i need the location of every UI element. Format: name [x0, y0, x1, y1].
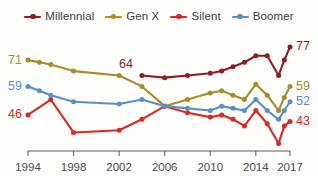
data-point-genx-2	[48, 62, 53, 67]
legend-swatch-genx-icon	[105, 13, 122, 22]
data-point-millennial-7	[253, 53, 258, 58]
data-point-millennial-6	[242, 60, 247, 65]
data-point-silent-8	[219, 112, 224, 117]
x-tick-label-2002: 2002	[106, 162, 132, 174]
legend-swatch-boomer-icon	[232, 13, 249, 22]
data-point-genx-5	[139, 84, 144, 89]
data-point-millennial-10	[282, 58, 287, 63]
data-point-millennial-1	[162, 75, 167, 80]
legend-label-silent: Silent	[191, 11, 220, 23]
value-label-silent-end: 43	[296, 115, 310, 128]
value-label-boomer-start: 59	[8, 80, 22, 93]
value-label-millennial-end: 77	[296, 40, 310, 53]
data-point-genx-0	[26, 58, 31, 63]
value-label-boomer-end: 52	[296, 95, 310, 108]
legend-label-genx: Gen X	[126, 11, 159, 23]
legend-swatch-millennial-icon	[24, 13, 41, 22]
data-point-silent-12	[265, 121, 270, 126]
data-point-silent-6	[185, 110, 190, 115]
data-point-silent-3	[117, 128, 122, 133]
legend-item-boomer[interactable]: Boomer	[232, 11, 294, 23]
data-point-boomer-12	[253, 97, 258, 102]
data-point-genx-11	[242, 97, 247, 102]
data-point-silent-9	[231, 117, 236, 122]
data-point-silent-0	[26, 112, 31, 117]
x-tick-label-2006: 2006	[152, 162, 178, 174]
data-point-boomer-10	[231, 106, 236, 111]
data-point-boomer-4	[117, 101, 122, 106]
series-line-millennial	[142, 47, 290, 78]
plot-svg	[0, 26, 318, 152]
data-point-silent-2	[71, 130, 76, 135]
data-point-millennial-4	[219, 69, 224, 74]
data-point-millennial-11	[288, 44, 293, 49]
value-label-genx-start: 71	[8, 54, 22, 67]
value-label-silent-start: 46	[8, 108, 22, 121]
data-point-millennial-0	[139, 73, 144, 78]
data-point-millennial-2	[185, 73, 190, 78]
legend-item-millennial[interactable]: Millennial	[24, 11, 94, 23]
data-point-boomer-14	[276, 117, 281, 122]
data-point-millennial-9	[276, 73, 281, 78]
x-tick-label-1998: 1998	[61, 162, 87, 174]
data-point-silent-10	[242, 123, 247, 128]
x-tick-label-1994: 1994	[15, 162, 41, 174]
legend-label-boomer: Boomer	[253, 11, 294, 23]
data-point-genx-4	[117, 73, 122, 78]
data-point-silent-11	[253, 108, 258, 113]
data-point-boomer-8	[208, 108, 213, 113]
x-tick-label-2014: 2014	[243, 162, 269, 174]
data-point-millennial-8	[265, 53, 270, 58]
data-point-genx-16	[288, 84, 293, 89]
series-line-silent	[28, 100, 290, 144]
data-point-boomer-9	[219, 104, 224, 109]
data-point-genx-14	[276, 108, 281, 113]
data-point-silent-14	[282, 123, 287, 128]
series-line-genx	[28, 60, 290, 110]
data-point-silent-15	[288, 119, 293, 124]
data-point-boomer-11	[242, 108, 247, 113]
data-point-boomer-16	[288, 99, 293, 104]
data-point-boomer-15	[282, 108, 287, 113]
data-point-genx-8	[208, 91, 213, 96]
value-label-millennial-start: 64	[119, 58, 133, 71]
data-point-genx-7	[185, 97, 190, 102]
legend-item-genx[interactable]: Gen X	[105, 11, 159, 23]
data-point-genx-15	[282, 95, 287, 100]
data-point-genx-1	[37, 60, 42, 65]
data-point-silent-4	[139, 117, 144, 122]
legend-item-silent[interactable]: Silent	[170, 11, 220, 23]
data-point-boomer-3	[71, 99, 76, 104]
line-chart: MillennialGen XSilentBoomer 199419982002…	[0, 0, 318, 176]
data-point-genx-9	[219, 88, 224, 93]
data-point-millennial-3	[208, 71, 213, 76]
x-axis: 1994199820022006201020142017	[0, 150, 318, 176]
legend-swatch-silent-icon	[170, 13, 187, 22]
data-point-silent-7	[208, 115, 213, 120]
chart-legend: MillennialGen XSilentBoomer	[0, 8, 318, 26]
data-point-genx-10	[231, 93, 236, 98]
data-point-silent-13	[276, 141, 281, 146]
data-point-genx-12	[253, 82, 258, 87]
data-point-boomer-0	[26, 84, 31, 89]
plot-area	[0, 26, 318, 152]
data-point-millennial-5	[231, 64, 236, 69]
data-point-boomer-7	[185, 106, 190, 111]
x-tick-label-2017: 2017	[277, 162, 303, 174]
data-point-boomer-5	[139, 97, 144, 102]
data-point-silent-1	[48, 97, 53, 102]
x-tick-label-2010: 2010	[197, 162, 223, 174]
data-point-boomer-13	[265, 108, 270, 113]
value-label-genx-end: 59	[296, 80, 310, 93]
legend-label-millennial: Millennial	[45, 11, 94, 23]
data-point-genx-13	[265, 93, 270, 98]
data-point-boomer-2	[48, 93, 53, 98]
data-point-boomer-6	[162, 104, 167, 109]
data-point-genx-3	[71, 69, 76, 74]
data-point-boomer-1	[37, 88, 42, 93]
